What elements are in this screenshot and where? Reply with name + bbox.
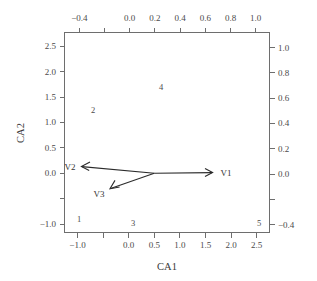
tick-label-left-4: 1.0	[45, 117, 57, 127]
tick-label-top-0: −0.4	[71, 13, 88, 23]
x-axis-title: CA1	[157, 261, 177, 272]
tick-label-bottom-2: 0.0	[123, 240, 135, 250]
species-vector-v1: V1	[154, 168, 231, 178]
v2-label: V2	[65, 162, 76, 172]
tick-label-top-7: 1.0	[250, 13, 262, 23]
v1-arrow-shaft	[154, 173, 212, 174]
tick-label-right-7: 1.0	[278, 43, 290, 53]
tick-label-left-3: 0.5	[45, 143, 57, 153]
top-axis-ticks	[79, 28, 255, 33]
tick-label-right-5: 0.6	[278, 93, 290, 103]
species-vector-v3: V3	[94, 173, 155, 199]
bottom-axis-tick-labels: −1.0 0.0 0.5 1.0 1.5 2.0 2.5	[69, 240, 262, 250]
tick-label-top-2: 0.0	[124, 13, 136, 23]
tick-label-top-3: 0.2	[149, 13, 160, 23]
site-point-labels: 1 2 3 4 5	[77, 82, 261, 228]
v3-arrow-shaft	[111, 173, 155, 188]
site-point-5: 5	[257, 218, 261, 228]
v3-arrow-head	[110, 180, 120, 188]
tick-label-top-5: 0.6	[200, 13, 212, 23]
tick-label-left-7: 2.5	[45, 41, 57, 51]
tick-label-bottom-4: 1.0	[174, 240, 186, 250]
tick-label-left-6: 2.0	[45, 67, 57, 77]
tick-label-bottom-0: −1.0	[69, 240, 86, 250]
tick-label-bottom-3: 0.5	[149, 240, 161, 250]
tick-label-right-4: 0.4	[278, 118, 290, 128]
tick-label-right-0: −0.4	[278, 220, 295, 230]
tick-label-right-3: 0.2	[278, 144, 289, 154]
tick-label-left-2: 0.0	[45, 168, 57, 178]
species-vector-v2: V2	[65, 162, 155, 173]
v2-arrow-shaft	[82, 167, 154, 174]
bottom-axis-ticks	[78, 233, 257, 238]
tick-label-right-2: 0.0	[278, 169, 290, 179]
left-axis-ticks	[60, 46, 65, 224]
tick-label-bottom-6: 2.0	[225, 240, 237, 250]
v1-label: V1	[221, 168, 232, 178]
right-axis-tick-labels: −0.4 0.0 0.2 0.4 0.6 0.8 1.0	[278, 43, 295, 230]
site-point-1: 1	[77, 214, 81, 224]
right-axis-ticks	[270, 48, 275, 225]
top-axis-tick-labels: −0.4 0.0 0.2 0.4 0.6 0.8 1.0	[71, 13, 262, 23]
tick-label-left-0: −1.0	[40, 219, 57, 229]
v3-label: V3	[94, 189, 105, 199]
plot-frame	[65, 33, 270, 233]
v2-arrow-head	[81, 162, 90, 171]
site-point-2: 2	[91, 105, 95, 115]
y-axis-title: CA2	[15, 123, 26, 143]
tick-label-left-5: 1.5	[45, 92, 57, 102]
tick-label-top-6: 0.8	[225, 13, 237, 23]
site-point-3: 3	[131, 218, 135, 228]
tick-label-top-4: 0.4	[174, 13, 186, 23]
tick-label-bottom-7: 2.5	[251, 240, 263, 250]
ordination-plot: −1.0 0.0 0.5 1.0 1.5 2.0 2.5 −0.4 0.0 0.…	[0, 0, 317, 281]
tick-label-right-6: 0.8	[278, 68, 290, 78]
left-axis-tick-labels: −1.0 0.0 0.5 1.0 1.5 2.0 2.5	[40, 41, 57, 229]
tick-label-bottom-5: 1.5	[200, 240, 212, 250]
plot-canvas: −1.0 0.0 0.5 1.0 1.5 2.0 2.5 −0.4 0.0 0.…	[0, 0, 317, 281]
site-point-4: 4	[159, 82, 164, 92]
